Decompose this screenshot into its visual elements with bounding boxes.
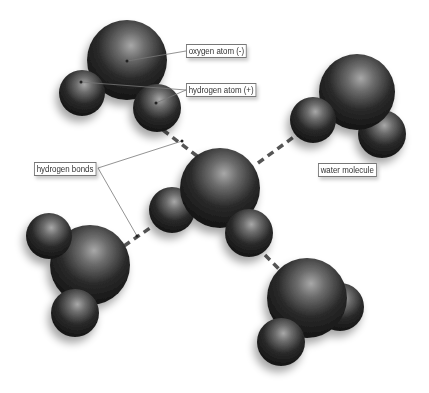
- hydrogen-atom: [225, 209, 273, 257]
- hydrogen-bond: [163, 130, 197, 156]
- hydrogen-atom: [257, 318, 305, 366]
- water-diagram: [0, 0, 429, 393]
- water-molecule-top-left: [59, 20, 181, 132]
- label-water-molecule: water molecule: [318, 163, 377, 177]
- pointer-dot: [80, 81, 83, 84]
- hydrogen-bond: [258, 131, 302, 163]
- leader-line-bond-1: [98, 141, 182, 168]
- leader-line-bond-2: [98, 168, 137, 236]
- hydrogen-atom: [59, 70, 105, 116]
- water-molecule-bottom-right: [257, 258, 364, 366]
- label-hydrogen-bonds: hydrogen bonds: [34, 162, 96, 176]
- hydrogen-bond: [265, 255, 280, 270]
- hydrogen-atom: [290, 97, 336, 143]
- pointer-dot: [136, 235, 139, 238]
- water-molecule-top-right: [290, 54, 406, 158]
- pointer-dot: [126, 60, 129, 63]
- water-molecule-center: [149, 148, 273, 257]
- hydrogen-atom: [51, 289, 99, 337]
- hydrogen-atom: [26, 213, 72, 259]
- pointer-dot: [181, 140, 184, 143]
- hydrogen-atom: [133, 84, 181, 132]
- label-hydrogen-atom: hydrogen atom (+): [186, 83, 256, 97]
- label-oxygen-atom: oxygen atom (-): [186, 44, 247, 58]
- water-molecule-bottom-left: [26, 213, 130, 337]
- pointer-dot: [155, 102, 158, 105]
